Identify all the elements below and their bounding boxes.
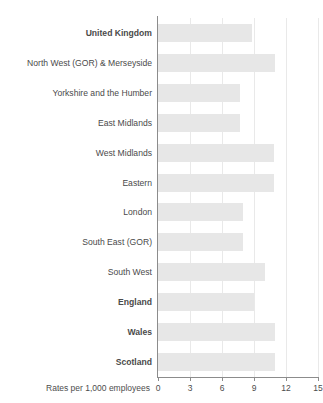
x-tick-mark-3 — [190, 377, 191, 381]
category-label-east-midlands: East Midlands — [0, 108, 152, 138]
bar-row — [158, 108, 318, 138]
bar — [158, 293, 254, 311]
bar — [158, 54, 275, 72]
category-label-wales: Wales — [0, 317, 152, 347]
category-label-text: East Midlands — [98, 118, 152, 128]
category-label-text: Wales — [127, 327, 152, 337]
category-label-scotland: Scotland — [0, 347, 152, 377]
bar — [158, 144, 274, 162]
bar — [158, 84, 240, 102]
plot-area — [158, 18, 318, 377]
bar-row — [158, 257, 318, 287]
x-tick-label-0: 0 — [148, 383, 168, 394]
category-label-west-midlands: West Midlands — [0, 138, 152, 168]
bar-row — [158, 168, 318, 198]
category-label-text: England — [118, 297, 152, 307]
category-label-text: West Midlands — [96, 148, 152, 158]
x-tick-mark-0 — [158, 377, 159, 381]
x-tick-label-9: 9 — [244, 383, 264, 394]
x-tick-label-3: 3 — [180, 383, 200, 394]
category-label-column: United KingdomNorth West (GOR) & Merseys… — [0, 18, 152, 377]
bar — [158, 24, 252, 42]
x-tick-label-6: 6 — [212, 383, 232, 394]
gridline-15 — [318, 18, 319, 377]
category-label-text: North West (GOR) & Merseyside — [27, 58, 152, 68]
bar — [158, 174, 274, 192]
bar-row — [158, 138, 318, 168]
x-tick-mark-9 — [254, 377, 255, 381]
y-axis-line — [157, 16, 158, 378]
bar-row — [158, 287, 318, 317]
category-label-text: Eastern — [122, 178, 152, 188]
bar-chart: United KingdomNorth West (GOR) & Merseys… — [0, 0, 323, 403]
bar-row — [158, 18, 318, 48]
category-label-united-kingdom: United Kingdom — [0, 18, 152, 48]
category-label-south-east-gor: South East (GOR) — [0, 227, 152, 257]
x-tick-mark-6 — [222, 377, 223, 381]
category-label-text: Yorkshire and the Humber — [52, 88, 152, 98]
bar — [158, 203, 243, 221]
category-label-text: South West — [108, 267, 152, 277]
bar-row — [158, 198, 318, 228]
category-label-london: London — [0, 198, 152, 228]
x-tick-mark-15 — [318, 377, 319, 381]
bar-row — [158, 48, 318, 78]
category-label-england: England — [0, 287, 152, 317]
x-tick-label-15: 15 — [308, 383, 323, 394]
bar-row — [158, 78, 318, 108]
bar — [158, 353, 275, 371]
bar — [158, 323, 275, 341]
category-label-yorkshire-and-the-humber: Yorkshire and the Humber — [0, 78, 152, 108]
category-label-north-west-gor-merseyside: North West (GOR) & Merseyside — [0, 48, 152, 78]
bar-row — [158, 317, 318, 347]
bar-row — [158, 227, 318, 257]
x-axis-title: Rates per 1,000 employees — [0, 383, 150, 394]
category-label-text: United Kingdom — [86, 28, 152, 38]
category-label-south-west: South West — [0, 257, 152, 287]
category-label-eastern: Eastern — [0, 168, 152, 198]
x-tick-label-12: 12 — [276, 383, 296, 394]
bar-row — [158, 347, 318, 377]
category-label-text: South East (GOR) — [82, 237, 152, 247]
bar — [158, 263, 265, 281]
bar — [158, 233, 243, 251]
x-tick-mark-12 — [286, 377, 287, 381]
category-label-text: Scotland — [116, 357, 152, 367]
category-label-text: London — [123, 207, 152, 217]
x-axis-line — [157, 377, 318, 378]
bar — [158, 114, 240, 132]
